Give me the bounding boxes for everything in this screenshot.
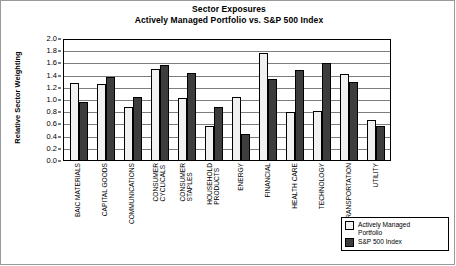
y-tick-label: 1.2 — [47, 84, 57, 92]
x-tick-label-line: FINANCIAL — [264, 163, 271, 197]
y-tick-mark — [58, 112, 61, 113]
bar-group — [65, 40, 92, 160]
y-tick-mark — [58, 39, 61, 40]
y-tick-label: 1.8 — [47, 47, 57, 55]
bar — [187, 73, 196, 160]
chart-title: Sector Exposures — [1, 4, 456, 15]
chart-legend: Actively Managed PortfolioS&P 500 Index — [341, 217, 449, 251]
x-tick-label-line: BAIC MATERIALS — [74, 163, 81, 217]
chart-frame: Sector Exposures Actively Managed Portfo… — [0, 0, 455, 265]
x-tick-group: HOUSEHOLDPRODUCTS — [200, 161, 227, 237]
x-tick-label: UTILITY — [373, 163, 380, 188]
bar — [151, 69, 160, 160]
bar — [133, 97, 142, 160]
y-axis-title: Relative Sector Weighting — [13, 33, 22, 163]
legend-swatch — [345, 221, 354, 230]
bar — [241, 134, 250, 160]
x-tick-label-line: HEALTH CARE — [291, 163, 298, 209]
bar — [232, 97, 241, 160]
bar — [178, 98, 187, 160]
bar-group — [281, 40, 308, 160]
bar — [259, 53, 268, 160]
x-tick-label-line: TRANSPORTATION — [346, 163, 353, 223]
bar — [322, 63, 331, 160]
bar-group — [227, 40, 254, 160]
y-tick-label: 0.8 — [47, 108, 57, 116]
bar — [79, 102, 88, 160]
y-tick-label: 1.4 — [47, 72, 57, 80]
x-tick-label-line: UTILITY — [373, 163, 380, 188]
y-tick-mark — [58, 51, 61, 52]
x-tick-group: ENERGY — [227, 161, 254, 237]
x-tick-group: HEALTH CARE — [281, 161, 308, 237]
x-tick-label: CONSUMERSTAPLES — [179, 163, 194, 201]
bar-group — [308, 40, 335, 160]
legend-item: Actively Managed Portfolio — [345, 221, 445, 236]
bar — [106, 77, 115, 160]
bar-group — [119, 40, 146, 160]
x-tick-label: CONSUMERCYCLICALS — [152, 163, 167, 201]
x-tick-label: ENERGY — [237, 163, 244, 191]
x-tick-label: HEALTH CARE — [291, 163, 298, 209]
y-tick-mark — [58, 75, 61, 76]
x-tick-group: BAIC MATERIALS — [64, 161, 91, 237]
bar — [340, 74, 349, 160]
bar — [160, 65, 169, 160]
bar-group — [335, 40, 362, 160]
bar-group — [362, 40, 389, 160]
legend-item: S&P 500 Index — [345, 238, 445, 247]
y-tick-mark — [58, 136, 61, 137]
bar — [349, 82, 358, 160]
x-tick-label: BAIC MATERIALS — [74, 163, 81, 217]
bar — [124, 107, 133, 160]
y-tick-label: 0.0 — [47, 157, 57, 165]
x-tick-label-line: CYCLICALS — [159, 163, 166, 201]
bar — [268, 79, 277, 160]
x-tick-label: HOUSEHOLDPRODUCTS — [206, 163, 221, 205]
bar — [367, 120, 376, 160]
bar-group — [92, 40, 119, 160]
x-tick-label-line: PRODUCTS — [213, 163, 220, 205]
y-tick-label: 1.6 — [47, 60, 57, 68]
x-tick-group: CONSUMERSTAPLES — [173, 161, 200, 237]
y-tick-mark — [58, 161, 61, 162]
chart-subtitle: Actively Managed Portfolio vs. S&P 500 I… — [1, 15, 456, 26]
x-tick-label: COMMUNICATIONS — [128, 163, 135, 224]
legend-label: S&P 500 Index — [358, 238, 402, 246]
x-tick-label-line: COMMUNICATIONS — [128, 163, 135, 224]
y-tick-label: 0.6 — [47, 121, 57, 129]
y-tick-mark — [58, 124, 61, 125]
y-tick-mark — [58, 63, 61, 64]
chart-title-block: Sector Exposures Actively Managed Portfo… — [1, 4, 456, 26]
x-tick-label-line: CAPITAL GOODS — [101, 163, 108, 216]
y-tick-label: 0.2 — [47, 145, 57, 153]
y-tick-mark — [58, 100, 61, 101]
x-tick-label-line: CONSUMER — [152, 163, 159, 201]
x-tick-group: CAPITAL GOODS — [91, 161, 118, 237]
bar — [214, 107, 223, 160]
x-tick-group: TECHNOLOGY — [309, 161, 336, 237]
bar — [205, 126, 214, 160]
x-tick-label-line: STAPLES — [186, 163, 193, 201]
bar — [70, 83, 79, 160]
bar-group — [146, 40, 173, 160]
bar — [295, 70, 304, 160]
x-tick-label: TECHNOLOGY — [318, 163, 325, 209]
bar — [286, 112, 295, 160]
y-tick-mark — [58, 148, 61, 149]
bar — [313, 111, 322, 160]
plot-area — [63, 39, 391, 161]
bar — [376, 126, 385, 160]
y-tick-label: 2.0 — [47, 35, 57, 43]
x-tick-label-line: TECHNOLOGY — [318, 163, 325, 209]
bar — [97, 84, 106, 160]
y-tick-label: 1.0 — [47, 96, 57, 104]
y-tick-mark — [58, 87, 61, 88]
y-axis-ticks: 2.01.81.61.41.21.00.80.60.40.20.0 — [23, 39, 61, 161]
x-tick-label: TRANSPORTATION — [346, 163, 353, 223]
x-tick-label-line: CONSUMER — [179, 163, 186, 201]
x-tick-label-line: ENERGY — [237, 163, 244, 191]
bar-group — [173, 40, 200, 160]
x-tick-label: FINANCIAL — [264, 163, 271, 197]
bar-group — [200, 40, 227, 160]
